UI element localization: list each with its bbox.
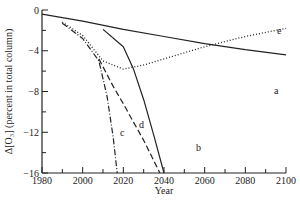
x-tick-label: 2100: [276, 175, 296, 186]
series-e-label: e: [277, 25, 282, 36]
y-tick-label: −16: [23, 168, 39, 179]
series-b-label: b: [196, 142, 201, 153]
series-a-label: a: [274, 85, 279, 96]
series-e-line: [62, 22, 286, 69]
series-d-label: d: [139, 119, 144, 130]
series-b-line: [103, 29, 164, 173]
x-tick-label: 2080: [235, 175, 255, 186]
ozone-depletion-chart: 19802000202020402060208021000−4−8−12−16Y…: [0, 0, 300, 200]
series-a-line: [42, 14, 286, 55]
axes: [42, 10, 286, 173]
x-tick-label: 2020: [113, 175, 133, 186]
y-tick-label: −8: [28, 86, 39, 97]
series-c-line: [62, 23, 117, 173]
x-tick-label: 2000: [73, 175, 93, 186]
y-tick-label: −4: [28, 45, 39, 56]
labels: 19802000202020402060208021000−4−8−12−16Y…: [3, 5, 296, 197]
y-tick-label: 0: [34, 5, 39, 16]
y-axis-title: Δ[O₃] (percent in total column): [3, 29, 15, 154]
x-axis-title: Year: [155, 185, 174, 196]
plot-area: [42, 14, 286, 173]
series-d-line: [99, 59, 160, 173]
x-tick-label: 2060: [195, 175, 215, 186]
series-c-label: c: [120, 127, 125, 138]
y-tick-label: −12: [23, 127, 39, 138]
